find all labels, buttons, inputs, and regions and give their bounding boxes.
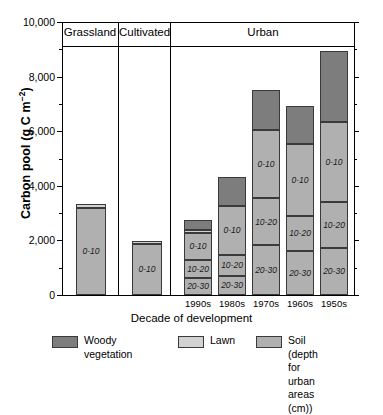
bar-segment-soil-20-30[interactable]: 20-30 xyxy=(320,248,348,295)
bar-segment-soil-20-30[interactable]: 20-30 xyxy=(218,276,246,295)
segment-label: 0-10 xyxy=(257,160,274,169)
bar-segment-soil-0-10[interactable]: 0-10 xyxy=(218,206,246,255)
segment-label: 10-20 xyxy=(221,261,243,270)
y-tick-minor xyxy=(354,268,357,269)
y-tick-major xyxy=(354,131,359,132)
panel-title-grassland: Grassland xyxy=(62,26,118,38)
legend-swatch-soil xyxy=(256,336,282,348)
bar-segment-soil-0-10[interactable]: 0-10 xyxy=(132,244,162,295)
bar-segment-soil-20-30[interactable]: 20-30 xyxy=(184,278,212,295)
segment-label: 0-10 xyxy=(189,242,206,251)
x-axis-line xyxy=(62,295,355,296)
y-tick-major xyxy=(354,186,359,187)
y-tick-major xyxy=(57,77,62,78)
bar-grassland[interactable]: 0-10 xyxy=(76,204,106,295)
bar-segment-lawn[interactable] xyxy=(76,204,106,208)
panel-divider xyxy=(118,22,119,295)
segment-label: 20-30 xyxy=(187,282,209,291)
bar-segment-lawn[interactable] xyxy=(184,230,212,233)
segment-label: 20-30 xyxy=(289,269,311,278)
bar-segment-soil-0-10[interactable]: 0-10 xyxy=(76,208,106,295)
panel-divider xyxy=(170,22,171,295)
bar-segment-soil-10-20[interactable]: 10-20 xyxy=(286,216,314,251)
y-tick-minor xyxy=(354,213,357,214)
y-tick-label: 2,000 xyxy=(29,234,55,246)
bar-1950s[interactable]: 20-3010-200-10 xyxy=(320,51,348,295)
y-tick-minor xyxy=(59,213,62,214)
bar-segment-soil-10-20[interactable]: 10-20 xyxy=(218,255,246,276)
bar-segment-woody-vegetation[interactable] xyxy=(320,51,348,122)
segment-label: 10-20 xyxy=(289,229,311,238)
legend-label-woody-vegetation: Woody vegetation xyxy=(84,334,132,361)
y-tick-label: 8,000 xyxy=(29,71,55,83)
y-tick-minor xyxy=(59,49,62,50)
segment-label: 0-10 xyxy=(325,158,342,167)
y-tick-label: 0 xyxy=(49,289,55,301)
x-tick-label-1960s: 1960s xyxy=(286,298,314,309)
bar-segment-soil-0-10[interactable]: 0-10 xyxy=(286,144,314,216)
segment-label: 10-20 xyxy=(255,218,277,227)
bar-segment-woody-vegetation[interactable] xyxy=(218,177,246,206)
bar-segment-soil-20-30[interactable]: 20-30 xyxy=(286,251,314,295)
y-tick-label: 4,000 xyxy=(29,180,55,192)
bar-1970s[interactable]: 20-3010-200-10 xyxy=(252,90,280,295)
y-tick-major xyxy=(354,77,359,78)
bar-segment-lawn[interactable] xyxy=(132,241,162,245)
legend-swatch-woody-vegetation xyxy=(52,336,78,348)
bar-segment-soil-10-20[interactable]: 10-20 xyxy=(184,260,212,278)
y-tick-label: 10,000 xyxy=(23,16,55,28)
y-tick-minor xyxy=(59,159,62,160)
legend-swatch-lawn xyxy=(178,336,204,348)
y-tick-minor xyxy=(59,268,62,269)
y-axis-title-text: Carbon pool (g C m−2) xyxy=(19,87,33,219)
bar-cultivated[interactable]: 0-10 xyxy=(132,241,162,295)
y-tick-major xyxy=(57,186,62,187)
y-tick-minor xyxy=(354,104,357,105)
bar-segment-soil-0-10[interactable]: 0-10 xyxy=(184,233,212,260)
bar-segment-soil-0-10[interactable]: 0-10 xyxy=(320,122,348,202)
bar-segment-soil-20-30[interactable]: 20-30 xyxy=(252,245,280,295)
segment-label: 0-10 xyxy=(291,176,308,185)
bar-segment-soil-0-10[interactable]: 0-10 xyxy=(252,130,280,198)
legend-label-soil: Soil (depth for urban areas (cm)) xyxy=(288,334,318,415)
legend-label-lawn: Lawn xyxy=(210,334,235,348)
y-tick-major xyxy=(354,295,359,296)
panel-title-urban: Urban xyxy=(171,26,355,38)
bar-1960s[interactable]: 20-3010-200-10 xyxy=(286,106,314,295)
x-tick-label-1970s: 1970s xyxy=(252,298,280,309)
bar-1990s[interactable]: 20-3010-200-10 xyxy=(184,220,212,295)
y-tick-minor xyxy=(354,49,357,50)
x-tick-label-1980s: 1980s xyxy=(218,298,246,309)
segment-label: 20-30 xyxy=(221,281,243,290)
y-tick-major xyxy=(57,240,62,241)
x-axis-title: Decade of development xyxy=(0,312,383,324)
segment-label: 20-30 xyxy=(255,266,277,275)
bar-segment-soil-10-20[interactable]: 10-20 xyxy=(252,198,280,245)
segment-label: 20-30 xyxy=(323,267,345,276)
bar-1980s[interactable]: 20-3010-200-10 xyxy=(218,177,246,295)
segment-label: 10-20 xyxy=(187,265,209,274)
y-tick-minor xyxy=(354,159,357,160)
panel-title-cultivated: Cultivated xyxy=(119,26,170,38)
x-tick-label-1990s: 1990s xyxy=(184,298,212,309)
y-tick-label: 6,000 xyxy=(29,125,55,137)
bar-segment-woody-vegetation[interactable] xyxy=(184,220,212,230)
segment-label: 0-10 xyxy=(223,226,240,235)
y-tick-major xyxy=(354,240,359,241)
chart-legend: Woody vegetationLawnSoil (depth for urba… xyxy=(0,334,383,376)
segment-label: 10-20 xyxy=(323,221,345,230)
y-tick-minor xyxy=(59,104,62,105)
y-axis-line xyxy=(62,22,63,295)
y-tick-major xyxy=(57,295,62,296)
segment-label: 0-10 xyxy=(138,265,155,274)
bar-segment-woody-vegetation[interactable] xyxy=(252,90,280,130)
bar-segment-soil-10-20[interactable]: 10-20 xyxy=(320,202,348,248)
bar-segment-woody-vegetation[interactable] xyxy=(286,106,314,144)
x-tick-label-1950s: 1950s xyxy=(320,298,348,309)
segment-label: 0-10 xyxy=(82,247,99,256)
plot-area: 02,0004,0006,0008,00010,000 GrasslandCul… xyxy=(62,22,355,295)
y-tick-major xyxy=(57,131,62,132)
